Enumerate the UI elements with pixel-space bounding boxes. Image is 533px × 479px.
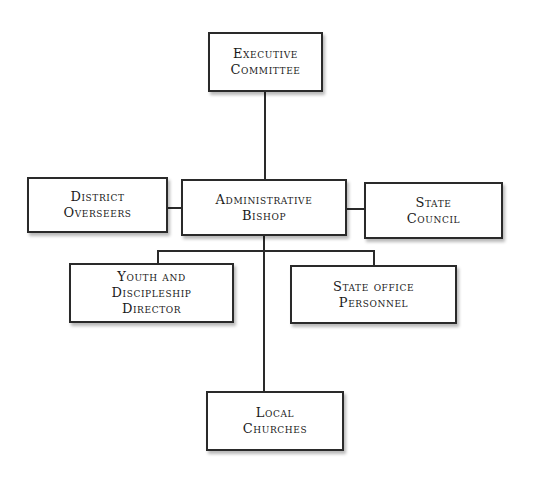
node-label-line: Executive xyxy=(233,46,298,62)
node-label-line: Overseers xyxy=(63,205,131,221)
node-label-line: Committee xyxy=(230,62,300,78)
node-label-line: Bishop xyxy=(242,208,286,224)
org-chart: Executive Committee District Overseers A… xyxy=(0,0,533,479)
connector-bishop-trunk xyxy=(263,236,265,392)
node-label-line: Discipleship xyxy=(111,285,191,301)
connector-executive-to-bishop xyxy=(264,92,266,180)
node-executive-committee: Executive Committee xyxy=(208,32,323,92)
node-label-line: Churches xyxy=(243,421,307,437)
node-state-council: State Council xyxy=(364,182,503,239)
node-administrative-bishop: Administrative Bishop xyxy=(181,179,347,236)
connector-to-youth xyxy=(157,250,159,264)
connector-bishop-to-council xyxy=(346,208,364,210)
connector-to-state-office xyxy=(373,250,375,266)
node-label-line: District xyxy=(70,189,124,205)
node-label-line: Personnel xyxy=(339,295,408,311)
connector-branch-horizontal xyxy=(157,250,374,252)
node-label-line: State Office xyxy=(333,279,414,295)
node-label-line: Director xyxy=(122,301,181,317)
node-label-line: Local xyxy=(256,405,294,421)
node-label-line: Council xyxy=(407,211,460,227)
node-label-line: Youth and xyxy=(117,269,186,285)
node-youth-discipleship-director: Youth and Discipleship Director xyxy=(69,263,234,323)
connector-district-to-bishop xyxy=(167,207,182,209)
node-state-office-personnel: State Office Personnel xyxy=(290,265,457,324)
node-local-churches: Local Churches xyxy=(206,391,344,451)
node-label-line: Administrative xyxy=(216,192,313,208)
node-label-line: State xyxy=(415,195,451,211)
node-district-overseers: District Overseers xyxy=(27,177,168,233)
